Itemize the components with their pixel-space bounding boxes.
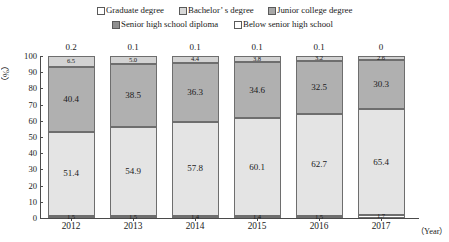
segment-value-label: 36.3 — [187, 88, 203, 97]
segment-value-label: 30.3 — [373, 80, 389, 89]
legend-swatch-senior-icon — [112, 21, 120, 29]
legend-item-below-senior-high-school[interactable]: Below senior high school — [234, 20, 337, 29]
bar-segment-senior-high[interactable]: 54.9 — [110, 127, 157, 216]
segment-value-label: 4.4 — [191, 56, 199, 63]
bar-segment-below-senior-high[interactable]: 1.5 — [296, 216, 343, 218]
segment-value-label: 1.7 — [377, 213, 385, 220]
x-tick-label: 2017 — [358, 222, 405, 231]
bar-segment-senior-high[interactable]: 62.7 — [296, 114, 343, 216]
x-tick-label: 2014 — [172, 222, 219, 231]
bar-top-value-label-graduate: 0.1 — [172, 43, 219, 52]
bar-segment-bachelor[interactable]: 5.0 — [110, 56, 157, 64]
bar-segment-bachelor[interactable]: 4.4 — [172, 56, 219, 63]
segment-value-label: 40.4 — [63, 95, 79, 104]
segment-value-label: 34.6 — [249, 86, 265, 95]
x-axis-label: （Year） — [416, 224, 447, 236]
bar-segment-junior-college[interactable]: 36.3 — [172, 63, 219, 122]
segment-value-label: 3.2 — [315, 55, 323, 62]
legend-row-2: Senior high school diploma Below senior … — [0, 18, 449, 32]
legend-row-1: Graduate degree Bachelor’ s degree Junio… — [0, 4, 449, 18]
bar-column[interactable]: 1.554.938.55.00.1 — [110, 56, 157, 218]
segment-value-label: 1.4 — [191, 214, 199, 221]
y-tick-label: 60 — [28, 117, 37, 126]
bar-column[interactable]: 1.765.430.32.60 — [358, 56, 405, 218]
y-axis-label: （%） — [2, 56, 16, 90]
x-axis-line — [40, 218, 419, 219]
bar-top-value-label-graduate: 0.1 — [110, 43, 157, 52]
x-tick-label: 2013 — [110, 222, 157, 231]
legend-label-below: Below senior high school — [243, 20, 333, 29]
bar-top-value-label-graduate: 0.2 — [48, 43, 95, 52]
y-tick-label: 10 — [28, 198, 37, 207]
legend-label-junior: Junior college degree — [277, 6, 352, 15]
bar-segment-below-senior-high[interactable]: 1.4 — [234, 216, 281, 218]
y-tick-label: 100 — [24, 52, 37, 61]
y-tick-label: 50 — [28, 133, 37, 142]
bar-segment-bachelor[interactable]: 3.8 — [234, 56, 281, 62]
y-tick-label: 30 — [28, 165, 37, 174]
bar-group: 1.551.440.46.50.21.554.938.55.00.11.457.… — [40, 56, 412, 218]
x-tick-label: 2016 — [296, 222, 343, 231]
legend-item-graduate-degree[interactable]: Graduate degree — [97, 6, 166, 15]
bar-segment-senior-high[interactable]: 60.1 — [234, 118, 281, 215]
segment-value-label: 2.6 — [377, 55, 385, 62]
bar-segment-junior-college[interactable]: 30.3 — [358, 60, 405, 109]
bar-top-value-label-graduate: 0 — [358, 43, 405, 52]
bar-segment-senior-high[interactable]: 51.4 — [48, 132, 95, 215]
bar-segment-below-senior-high[interactable]: 1.7 — [358, 215, 405, 218]
y-tick-label: 80 — [28, 84, 37, 93]
legend-label-graduate: Graduate degree — [106, 6, 164, 15]
bar-segment-bachelor[interactable]: 6.5 — [48, 56, 95, 67]
legend-item-junior-college-degree[interactable]: Junior college degree — [268, 6, 356, 15]
bar-column[interactable]: 1.457.836.34.40.1 — [172, 56, 219, 218]
segment-value-label: 60.1 — [249, 163, 265, 172]
legend-swatch-graduate-icon — [97, 7, 105, 15]
legend-swatch-below-icon — [234, 21, 242, 29]
bar-segment-junior-college[interactable]: 32.5 — [296, 61, 343, 114]
legend-label-senior: Senior high school diploma — [121, 20, 218, 29]
bar-segment-junior-college[interactable]: 40.4 — [48, 67, 95, 132]
segment-value-label: 6.5 — [67, 58, 75, 65]
bar-column[interactable]: 1.562.732.53.20.1 — [296, 56, 343, 218]
bar-column[interactable]: 1.460.134.63.80.1 — [234, 56, 281, 218]
segment-value-label: 54.9 — [125, 167, 141, 176]
x-tick-label: 2012 — [48, 222, 95, 231]
bar-segment-junior-college[interactable]: 38.5 — [110, 64, 157, 126]
segment-value-label: 51.4 — [63, 169, 79, 178]
bar-segment-below-senior-high[interactable]: 1.5 — [48, 216, 95, 218]
bar-top-value-label-graduate: 0.1 — [296, 43, 343, 52]
segment-value-label: 5.0 — [129, 57, 137, 64]
plot-area: 0102030405060708090100 1.551.440.46.50.2… — [40, 56, 412, 218]
x-tick-label: 2015 — [234, 222, 281, 231]
bar-segment-bachelor[interactable]: 3.2 — [296, 56, 343, 61]
y-tick-mark — [40, 218, 43, 219]
y-tick-label: 40 — [28, 149, 37, 158]
legend-swatch-junior-icon — [268, 7, 276, 15]
bar-top-value-label-graduate: 0.1 — [234, 43, 281, 52]
bar-segment-below-senior-high[interactable]: 1.5 — [110, 216, 157, 218]
bar-segment-senior-high[interactable]: 57.8 — [172, 122, 219, 216]
y-tick-label: 20 — [28, 181, 37, 190]
segment-value-label: 57.8 — [187, 164, 203, 173]
segment-value-label: 32.5 — [311, 83, 327, 92]
y-tick-label: 0 — [33, 214, 37, 223]
bar-column[interactable]: 1.551.440.46.50.2 — [48, 56, 95, 218]
chart-root: Graduate degree Bachelor’ s degree Junio… — [0, 0, 449, 242]
bar-segment-below-senior-high[interactable]: 1.4 — [172, 216, 219, 218]
bar-segment-senior-high[interactable]: 65.4 — [358, 109, 405, 215]
y-tick-label: 70 — [28, 100, 37, 109]
bar-segment-bachelor[interactable]: 2.6 — [358, 56, 405, 60]
segment-value-label: 65.4 — [373, 158, 389, 167]
legend-label-bachelor: Bachelor’ s degree — [188, 6, 254, 15]
legend-item-senior-high-school-diploma[interactable]: Senior high school diploma — [112, 20, 222, 29]
segment-value-label: 1.4 — [253, 214, 261, 221]
segment-value-label: 62.7 — [311, 160, 327, 169]
segment-value-label: 1.5 — [129, 214, 137, 221]
legend-item-bachelor-degree[interactable]: Bachelor’ s degree — [179, 6, 257, 15]
legend-swatch-bachelor-icon — [179, 7, 187, 15]
bar-segment-junior-college[interactable]: 34.6 — [234, 62, 281, 118]
chart-legend: Graduate degree Bachelor’ s degree Junio… — [0, 4, 449, 32]
segment-value-label: 3.8 — [253, 56, 261, 63]
segment-value-label: 1.5 — [315, 214, 323, 221]
segment-value-label: 1.5 — [67, 214, 75, 221]
